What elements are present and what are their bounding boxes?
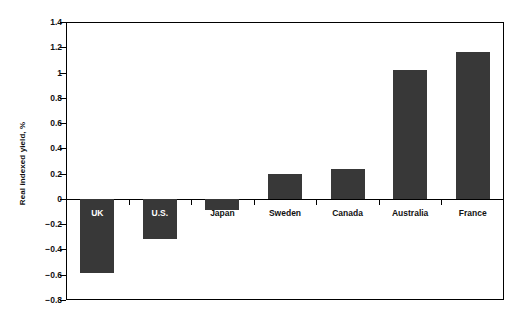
y-axis-tick-label: 1.2 bbox=[30, 42, 62, 52]
y-axis-tick-mark bbox=[60, 22, 66, 23]
y-axis-tick-mark bbox=[60, 174, 66, 175]
bar-australia bbox=[393, 70, 427, 199]
y-axis-tick-mark bbox=[60, 199, 66, 200]
x-axis-tick-mark bbox=[129, 199, 130, 205]
x-axis-tick-mark bbox=[379, 199, 380, 205]
y-axis-tick-label: −0.6 bbox=[30, 270, 62, 280]
x-axis-category-label: France bbox=[459, 208, 487, 218]
y-axis-tick-label: 0.8 bbox=[30, 93, 62, 103]
x-axis-category-label: UK bbox=[91, 208, 103, 218]
y-axis-tick-label: −0.2 bbox=[30, 219, 62, 229]
x-axis-tick-mark bbox=[316, 199, 317, 205]
y-axis-tick-label: 1.4 bbox=[30, 17, 62, 27]
bar-u-s bbox=[143, 199, 177, 239]
y-axis-tick-mark bbox=[60, 300, 66, 301]
y-axis-tick-label: −0.4 bbox=[30, 244, 62, 254]
bar-sweden bbox=[268, 174, 302, 199]
y-axis-tick-mark bbox=[60, 249, 66, 250]
x-axis-category-label: Sweden bbox=[269, 208, 301, 218]
plot-area bbox=[66, 22, 504, 300]
x-axis-category-label: Japan bbox=[210, 208, 235, 218]
y-axis-tick-label: 0 bbox=[30, 194, 62, 204]
x-axis-tick-mark bbox=[254, 199, 255, 205]
y-axis-tick-label: −0.8 bbox=[30, 295, 62, 305]
y-axis-tick-mark bbox=[60, 123, 66, 124]
y-axis-tick-mark bbox=[60, 224, 66, 225]
y-axis-tick-mark bbox=[60, 47, 66, 48]
x-axis-category-label: Canada bbox=[332, 208, 363, 218]
y-axis-tick-label: 0.6 bbox=[30, 118, 62, 128]
bar-canada bbox=[331, 169, 365, 199]
y-axis-tick-mark bbox=[60, 148, 66, 149]
y-axis-tick-mark bbox=[60, 73, 66, 74]
y-axis-tick-label: 0.2 bbox=[30, 169, 62, 179]
bar-chart: Real indexed yield, % 1.41.210.80.60.40.… bbox=[0, 0, 523, 326]
x-axis-tick-mark bbox=[191, 199, 192, 205]
x-axis-category-label: Australia bbox=[392, 208, 428, 218]
zero-baseline bbox=[66, 199, 504, 200]
x-axis-category-label: U.S. bbox=[152, 208, 169, 218]
bar-france bbox=[456, 52, 490, 199]
y-axis-tick-label: 0.4 bbox=[30, 143, 62, 153]
y-axis-title-text: Real indexed yield, % bbox=[19, 121, 28, 204]
x-axis-tick-mark bbox=[441, 199, 442, 205]
y-axis-tick-mark bbox=[60, 98, 66, 99]
y-axis-tick-label: 1 bbox=[30, 68, 62, 78]
y-axis-tick-mark bbox=[60, 275, 66, 276]
y-axis-tick-labels: 1.41.210.80.60.40.20−0.2−0.4−0.6−0.8 bbox=[30, 0, 62, 326]
